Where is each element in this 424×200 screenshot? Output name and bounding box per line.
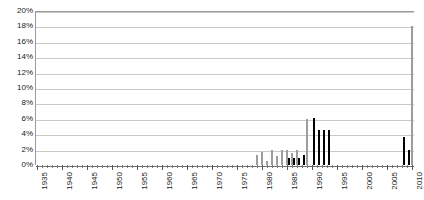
gridline <box>36 74 414 75</box>
x-axis-tick <box>282 165 283 168</box>
x-axis-tick <box>397 165 398 168</box>
x-axis-tick <box>92 165 93 168</box>
x-axis-tick <box>277 165 278 168</box>
y-axis-tick-label: 18% <box>1 22 33 30</box>
x-axis-tick <box>202 165 203 168</box>
x-axis-tick <box>127 165 128 168</box>
x-axis-tick <box>332 165 333 168</box>
x-axis-tick <box>87 165 88 170</box>
x-axis-tick <box>392 165 393 168</box>
x-axis-tick <box>237 165 238 170</box>
x-axis-tick <box>177 165 178 168</box>
bar <box>256 155 258 165</box>
x-axis-tick-label: 2000 <box>366 172 374 190</box>
y-axis-tick-label: 6% <box>1 115 33 123</box>
gridline <box>36 89 414 90</box>
x-axis-tick <box>162 165 163 170</box>
x-axis-tick <box>287 165 288 170</box>
x-axis-tick <box>357 165 358 168</box>
x-axis-tick <box>67 165 68 168</box>
x-axis-tick <box>152 165 153 168</box>
x-axis-tick-label: 1985 <box>291 172 299 190</box>
x-axis-tick <box>352 165 353 168</box>
x-axis-tick <box>382 165 383 168</box>
y-axis-tick-label: 2% <box>1 146 33 154</box>
x-axis-tick <box>222 165 223 168</box>
x-axis-tick-label: 1960 <box>166 172 174 190</box>
x-axis-tick <box>157 165 158 168</box>
x-axis-tick <box>182 165 183 168</box>
bar <box>293 158 295 165</box>
bar <box>306 119 308 165</box>
x-axis-tick <box>147 165 148 168</box>
x-axis-tick <box>262 165 263 170</box>
x-axis-tick-label: 1955 <box>141 172 149 190</box>
gridline <box>36 135 414 136</box>
bar <box>288 158 290 165</box>
x-axis-tick <box>302 165 303 168</box>
bar <box>298 158 300 165</box>
gridline <box>36 27 414 28</box>
x-axis-tick <box>327 165 328 168</box>
x-axis-tick <box>187 165 188 170</box>
x-axis-tick-label: 2005 <box>391 172 399 190</box>
x-axis-tick-label: 1995 <box>341 172 349 190</box>
y-axis-tick-label: 0% <box>1 161 33 169</box>
x-axis-tick-label: 1940 <box>66 172 74 190</box>
x-axis-tick-label: 1935 <box>41 172 49 190</box>
y-axis-labels: 20%18%16%14%12%10%8%6%4%2%0% <box>0 11 33 165</box>
x-axis-tick <box>57 165 58 168</box>
x-axis-tick <box>242 165 243 168</box>
x-axis-tick-label: 1980 <box>266 172 274 190</box>
x-axis-tick-label: 1970 <box>216 172 224 190</box>
x-axis-tick <box>42 165 43 168</box>
y-axis-tick-label: 10% <box>1 84 33 92</box>
gridline <box>36 43 414 44</box>
x-axis-tick <box>77 165 78 168</box>
x-axis-tick <box>347 165 348 168</box>
x-axis-tick <box>247 165 248 168</box>
gridline <box>36 12 414 13</box>
x-axis-tick-label: 1975 <box>241 172 249 190</box>
bar <box>411 26 413 165</box>
bar <box>328 130 330 165</box>
x-axis-tick <box>367 165 368 168</box>
x-axis-tick <box>317 165 318 168</box>
x-axis-tick <box>412 165 413 170</box>
x-axis-tick <box>122 165 123 168</box>
x-axis-tick-label: 1990 <box>316 172 324 190</box>
x-axis-tick <box>272 165 273 168</box>
y-axis-tick-label: 8% <box>1 99 33 107</box>
x-axis-tick <box>377 165 378 168</box>
y-axis-tick-label: 16% <box>1 38 33 46</box>
x-axis-tick <box>312 165 313 170</box>
gridline <box>36 120 414 121</box>
x-axis-tick <box>337 165 338 170</box>
x-axis-tick <box>402 165 403 168</box>
x-axis-tick <box>62 165 63 170</box>
x-axis-tick <box>252 165 253 168</box>
x-axis-tick <box>387 165 388 170</box>
bar <box>323 130 325 165</box>
y-axis-tick-label: 20% <box>1 7 33 15</box>
x-axis-tick <box>297 165 298 168</box>
x-axis-tick <box>112 165 113 170</box>
y-axis-tick-label: 4% <box>1 130 33 138</box>
x-axis-tick <box>117 165 118 168</box>
x-axis-tick <box>107 165 108 168</box>
x-axis-tick <box>322 165 323 168</box>
x-axis-tick <box>167 165 168 168</box>
bar <box>403 137 405 165</box>
bar <box>276 156 278 165</box>
x-axis-tick <box>142 165 143 168</box>
x-axis-tick-label: 1945 <box>91 172 99 190</box>
x-axis-tick <box>342 165 343 168</box>
bar <box>303 155 305 165</box>
x-axis-tick <box>52 165 53 168</box>
x-axis-tick-label: 1965 <box>191 172 199 190</box>
x-axis-tick <box>197 165 198 168</box>
x-axis-tick <box>257 165 258 168</box>
x-axis-tick <box>82 165 83 168</box>
y-axis-tick-label: 12% <box>1 69 33 77</box>
x-axis-tick <box>137 165 138 170</box>
